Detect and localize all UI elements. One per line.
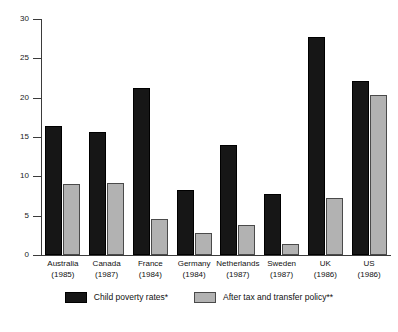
x-axis-label: UK(1986) [304, 258, 348, 280]
legend-swatch [65, 292, 87, 303]
bar-group [177, 19, 212, 255]
y-axis-tick-label: 5 [25, 210, 29, 221]
x-axis-label-year: (1987) [85, 269, 129, 280]
bar-group [133, 19, 168, 255]
bar-group [89, 19, 124, 255]
bar [238, 225, 255, 255]
y-axis-tick-label: 15 [20, 131, 29, 142]
x-axis-label: US(1986) [347, 258, 391, 280]
y-axis-tick-label: 10 [20, 170, 29, 181]
x-axis-label: Germany(1984) [172, 258, 216, 280]
legend-label: After tax and transfer policy** [223, 292, 333, 303]
x-axis-label-country: US [364, 259, 375, 268]
x-axis-category-labels: Australia(1985)Canada(1987)France(1984)G… [41, 258, 391, 286]
bar [151, 219, 168, 255]
bar [282, 244, 299, 255]
x-axis-label-year: (1985) [41, 269, 85, 280]
x-axis-label-year: (1987) [260, 269, 304, 280]
bar [107, 183, 124, 255]
x-axis-label-country: Sweden [267, 259, 296, 268]
x-axis-label-country: Australia [47, 259, 78, 268]
bar [308, 37, 325, 255]
bar [45, 126, 62, 255]
bar-group [308, 19, 343, 255]
x-axis-label-year: (1984) [172, 269, 216, 280]
x-axis-label: France(1984) [129, 258, 173, 280]
x-axis-label-country: Germany [178, 259, 211, 268]
x-axis-label: Canada(1987) [85, 258, 129, 280]
bar [195, 233, 212, 255]
bar [326, 198, 343, 255]
bar [220, 145, 237, 255]
plot-area [41, 19, 390, 255]
x-axis-label-year: (1984) [129, 269, 173, 280]
x-axis-label-country: Canada [93, 259, 121, 268]
x-axis-label-year: (1986) [347, 269, 391, 280]
legend-label: Child poverty rates* [94, 292, 168, 303]
x-axis-label-country: France [138, 259, 163, 268]
legend-item: After tax and transfer policy** [194, 292, 333, 303]
x-axis-label: Netherlands(1987) [216, 258, 260, 280]
x-axis-label: Australia(1985) [41, 258, 85, 280]
bar-group [220, 19, 255, 255]
x-axis-label-country: UK [320, 259, 331, 268]
y-axis-tick-label: 20 [20, 92, 29, 103]
y-axis-tick-label: 30 [20, 13, 29, 24]
bar-group [352, 19, 387, 255]
chart-legend: Child poverty rates*After tax and transf… [0, 292, 398, 303]
bar [63, 184, 80, 255]
legend-swatch [194, 292, 216, 303]
bar-group [264, 19, 299, 255]
x-axis-line [41, 255, 391, 256]
bar [177, 190, 194, 255]
bar [370, 95, 387, 255]
y-axis-tick: 0 [33, 255, 42, 256]
y-axis-tick-label: 25 [20, 52, 29, 63]
bar [352, 81, 369, 255]
bar [264, 194, 281, 255]
bar-chart: 051015202530 Australia(1985)Canada(1987)… [0, 0, 398, 332]
x-axis-label-year: (1986) [304, 269, 348, 280]
x-axis-label-country: Netherlands [216, 259, 259, 268]
y-axis-tick-label: 0 [25, 249, 29, 260]
bar-group [45, 19, 80, 255]
x-axis-label-year: (1987) [216, 269, 260, 280]
bar [133, 88, 150, 255]
bar [89, 132, 106, 256]
x-axis-label: Sweden(1987) [260, 258, 304, 280]
legend-item: Child poverty rates* [65, 292, 168, 303]
